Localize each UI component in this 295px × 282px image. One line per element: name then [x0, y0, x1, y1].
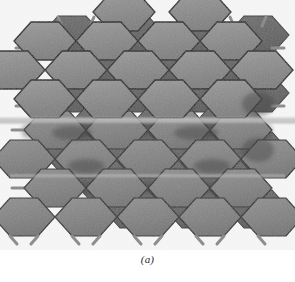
- figure-caption: (a): [0, 252, 295, 266]
- figure-root: (a): [0, 0, 295, 282]
- honeycomb-lattice-illustration: [0, 0, 295, 250]
- scan-grain-overlay: [0, 0, 295, 250]
